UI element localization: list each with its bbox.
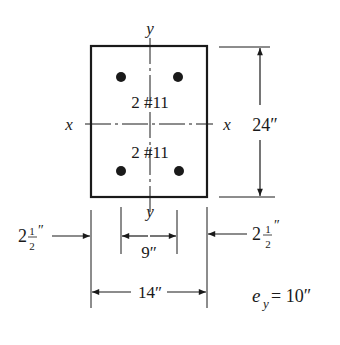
- x-axis-label-right: x: [222, 115, 231, 134]
- rebar-bottom-right: [174, 166, 184, 176]
- y-axis-label-top: y: [144, 19, 154, 38]
- top-bars-label: 2 #11: [131, 93, 169, 112]
- svg-text:= 10″: = 10″: [271, 286, 311, 306]
- left-cover-label: 2 1 2 ″: [18, 223, 44, 252]
- rebar-bottom-left: [116, 166, 126, 176]
- svg-text:2: 2: [265, 238, 271, 250]
- column-section-diagram: y y x x 2 #11 2 #11 24″ 2 1 2 ″ 2 1 2 ″ …: [0, 0, 340, 345]
- right-cover-label: 2 1 2 ″: [252, 218, 280, 250]
- diagram-canvas: y y x x 2 #11 2 #11 24″ 2 1 2 ″ 2 1 2 ″ …: [0, 0, 340, 345]
- x-axis-label-left: x: [64, 115, 73, 134]
- svg-text:e: e: [252, 285, 260, 306]
- svg-text:2: 2: [252, 224, 261, 244]
- svg-text:2: 2: [18, 226, 27, 246]
- height-dimension-label: 24″: [252, 115, 278, 135]
- column-outline: [91, 46, 207, 197]
- svg-text:y: y: [261, 296, 269, 311]
- bar-spacing-label: 9″: [141, 243, 157, 262]
- rebar-top-left: [116, 72, 126, 82]
- bottom-bars-label: 2 #11: [131, 143, 169, 162]
- rebar-top-right: [173, 72, 183, 82]
- width-dimension-label: 14″: [138, 283, 162, 302]
- eccentricity-label: e y = 10″: [252, 285, 311, 311]
- svg-text:2: 2: [29, 240, 35, 252]
- svg-text:1: 1: [265, 223, 271, 235]
- svg-text:1: 1: [29, 225, 35, 237]
- y-axis-label-bottom: y: [144, 202, 154, 221]
- svg-text:″: ″: [38, 223, 44, 238]
- svg-text:″: ″: [274, 218, 280, 233]
